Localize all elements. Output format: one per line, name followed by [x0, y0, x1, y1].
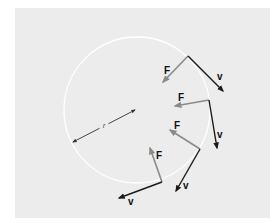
force-label: F	[178, 92, 184, 103]
radius-label: r	[103, 121, 106, 130]
velocity-label: v	[217, 129, 223, 140]
force-arrow	[170, 130, 200, 149]
radius-line-right	[108, 110, 135, 124]
force-label: F	[164, 65, 170, 76]
vector-pair-3: Fv	[170, 120, 200, 191]
vector-pair-4: Fv	[119, 148, 162, 207]
velocity-arrow	[209, 100, 217, 148]
radius-line-left	[73, 128, 100, 142]
radius-arrow: r	[73, 110, 135, 142]
velocity-label: v	[128, 196, 134, 207]
vector-pair-2: Fv	[175, 92, 223, 148]
velocity-label: v	[217, 71, 223, 82]
velocity-arrow	[119, 182, 162, 198]
circular-motion-diagram: r FvFvFvFv	[0, 0, 275, 223]
force-label: F	[156, 150, 162, 161]
force-label: F	[174, 120, 180, 131]
velocity-label: v	[183, 180, 189, 191]
vector-pair-1: Fv	[163, 56, 223, 91]
circular-path	[64, 37, 210, 183]
